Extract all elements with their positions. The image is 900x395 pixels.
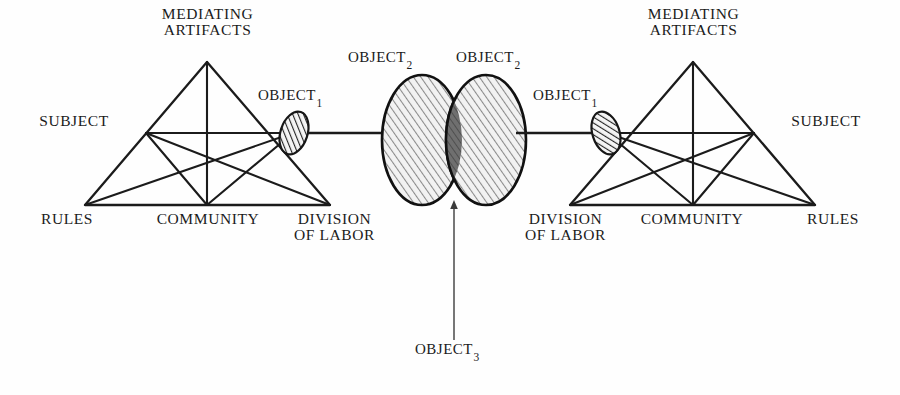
right-object2-subscript: 2: [515, 59, 521, 71]
left-object1-label: OBJECT1: [258, 87, 322, 106]
right-subject-community-line: [693, 133, 754, 205]
object3-pointer: [450, 200, 458, 340]
activity-system-svg: [0, 0, 900, 395]
right-mediating-artifacts-label: MEDIATING ARTIFACTS: [616, 6, 771, 38]
diagram-canvas: MEDIATING ARTIFACTS SUBJECT RULES COMMUN…: [0, 0, 900, 395]
right-object1-subscript: 1: [592, 97, 598, 109]
shared-object-ellipses: [382, 75, 526, 205]
left-subject-community-line: [146, 133, 207, 205]
right-division-of-labor-label: DIVISION OF LABOR: [503, 211, 628, 243]
object3-subscript: 3: [474, 351, 480, 363]
right-community-label: COMMUNITY: [617, 211, 767, 227]
left-object1-text: OBJECT: [258, 87, 316, 103]
right-object1-ellipse: [586, 108, 625, 158]
left-object2-text: OBJECT: [348, 49, 406, 65]
left-subject-label: SUBJECT: [14, 113, 134, 129]
right-object1-text: OBJECT: [533, 87, 591, 103]
left-community-label: COMMUNITY: [133, 211, 283, 227]
right-object1-label: OBJECT1: [533, 87, 597, 106]
left-object2-subscript: 2: [407, 59, 413, 71]
left-object1-subscript: 1: [317, 97, 323, 109]
right-rules-label: RULES: [788, 211, 878, 227]
object3-text: OBJECT: [415, 341, 473, 357]
left-rules-label: RULES: [22, 211, 112, 227]
right-object2-text: OBJECT: [456, 49, 514, 65]
left-object1-ellipse: [274, 108, 313, 158]
left-object2-label: OBJECT2: [348, 49, 412, 68]
left-division-of-labor-label: DIVISION OF LABOR: [272, 211, 397, 243]
object3-label: OBJECT3: [415, 341, 479, 360]
right-object2-label: OBJECT2: [456, 49, 520, 68]
right-subject-label: SUBJECT: [766, 113, 886, 129]
left-mediating-artifacts-label: MEDIATING ARTIFACTS: [130, 6, 285, 38]
